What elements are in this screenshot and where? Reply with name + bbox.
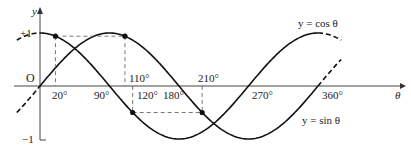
cos-curve-extension-right: [318, 33, 341, 40]
x-tick-360: 360°: [322, 90, 343, 101]
origin-label: O: [26, 72, 35, 84]
y-tick-minus-one: −1: [22, 134, 34, 145]
x-axis-label: θ: [395, 90, 400, 101]
y-tick-plus-one: +1: [20, 28, 32, 39]
trig-graph: y +1 O −1 20° 90° 110° 120° 180° 210° 27…: [0, 0, 411, 159]
marked-point-120: [130, 110, 135, 115]
cos-curve-label: y = cos θ: [298, 18, 338, 29]
x-tick-110: 110°: [129, 73, 150, 84]
y-axis-label: y: [32, 6, 37, 17]
marked-point-210: [200, 110, 205, 115]
x-tick-270: 270°: [252, 90, 273, 101]
x-tick-90: 90°: [94, 90, 109, 101]
sin-curve-extension-right: [318, 60, 341, 87]
x-tick-180: 180°: [163, 90, 184, 101]
x-tick-120: 120°: [137, 90, 158, 101]
x-tick-20: 20°: [52, 90, 67, 101]
sin-curve-extension-left: [17, 86, 40, 113]
marked-point-110: [122, 34, 127, 39]
marked-point-20: [53, 34, 58, 39]
x-tick-210: 210°: [198, 73, 219, 84]
sin-curve-label: y = sin θ: [302, 115, 340, 126]
x-axis-arrow-icon: [400, 83, 406, 89]
y-axis-arrow-icon: [37, 7, 43, 14]
